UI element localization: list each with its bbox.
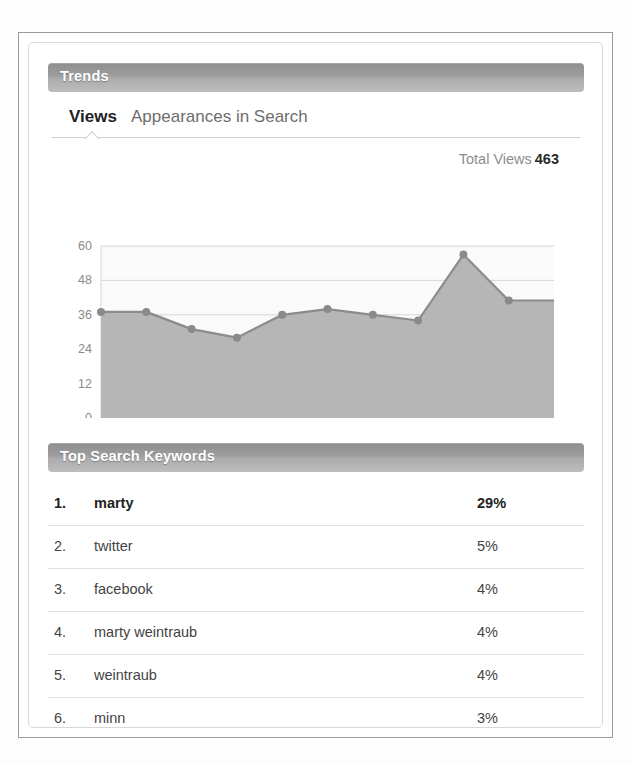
views-trend-chart: 01224364860 [48,183,584,418]
keyword-term: twitter [94,538,133,554]
keyword-row[interactable]: 5.weintraub4% [48,655,584,698]
keyword-rank: 2. [54,538,80,554]
chart-data-point[interactable] [142,308,150,316]
keyword-row[interactable]: 4.marty weintraub4% [48,612,584,655]
total-views-summary: Total Views463 [459,151,559,167]
chart-data-point[interactable] [369,311,377,319]
tab-appearances-in-search[interactable]: Appearances in Search [131,107,308,127]
chart-data-point[interactable] [233,334,241,342]
keyword-term: facebook [94,581,153,597]
keywords-section-header: Top Search Keywords [48,443,584,472]
keywords-title: Top Search Keywords [60,448,215,464]
keyword-rank: 6. [54,710,80,726]
y-axis-tick-label: 24 [78,342,92,356]
keyword-rank: 1. [54,495,80,511]
y-axis-tick-label: 60 [78,239,92,253]
tab-views[interactable]: Views [69,107,117,127]
chart-data-point[interactable] [414,317,422,325]
keyword-term: marty [94,495,134,511]
keyword-term: weintraub [94,667,157,683]
keyword-term: marty weintraub [94,624,197,640]
chart-data-point[interactable] [188,325,196,333]
active-tab-indicator-icon [82,130,104,139]
chart-data-point[interactable] [459,251,467,259]
total-views-value: 463 [535,151,559,167]
trends-title: Trends [60,68,109,84]
keyword-percent: 5% [477,538,498,554]
keyword-row[interactable]: 3.facebook4% [48,569,584,612]
trends-section-header: Trends [48,63,584,92]
chart-data-point[interactable] [278,311,286,319]
y-axis-tick-label: 12 [78,377,92,391]
tab-underline [52,137,580,138]
keyword-percent: 3% [477,710,498,726]
keyword-percent: 4% [477,581,498,597]
keyword-rank: 5. [54,667,80,683]
chart-data-point[interactable] [505,297,513,305]
chart-data-point[interactable] [97,308,105,316]
top-search-keywords-list: 1.marty29%2.twitter5%3.facebook4%4.marty… [48,483,584,728]
screenshot-page: Trends Views Appearances in Search Total… [0,0,631,764]
y-axis-tick-label: 48 [78,273,92,287]
analytics-card: Trends Views Appearances in Search Total… [28,42,603,728]
keyword-row[interactable]: 1.marty29% [48,483,584,526]
keyword-rank: 3. [54,581,80,597]
y-axis-tick-label: 0 [85,411,92,418]
keyword-row[interactable]: 6.minn3% [48,698,584,728]
keyword-rank: 4. [54,624,80,640]
keyword-percent: 4% [477,624,498,640]
y-axis-tick-label: 36 [78,308,92,322]
chart-y-axis-labels: 01224364860 [78,239,92,418]
total-views-label: Total Views [459,151,532,167]
trends-tab-bar: Views Appearances in Search [48,105,584,145]
keyword-percent: 29% [477,495,506,511]
scan-outer-frame: Trends Views Appearances in Search Total… [18,32,613,738]
keyword-term: minn [94,710,125,726]
views-area-chart-svg: 01224364860 [48,183,584,418]
keyword-row[interactable]: 2.twitter5% [48,526,584,569]
chart-data-point[interactable] [324,305,332,313]
keyword-percent: 4% [477,667,498,683]
